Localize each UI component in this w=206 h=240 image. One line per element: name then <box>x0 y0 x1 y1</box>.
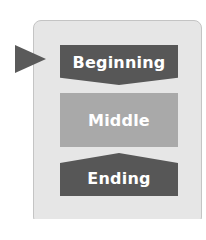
stage-middle-label: Middle <box>88 111 150 130</box>
stage-ending-label: Ending <box>87 169 150 188</box>
stage-beginning: Beginning <box>60 45 178 85</box>
stage-beginning-label: Beginning <box>73 53 166 72</box>
stage-middle: Middle <box>60 93 178 147</box>
pointer-arrow-icon <box>15 45 46 73</box>
